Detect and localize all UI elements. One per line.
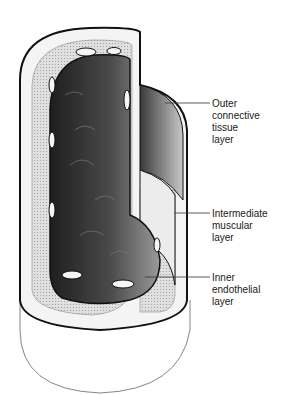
blood-vessel-illustration	[0, 0, 282, 395]
label-intermediate-muscular-layer: Intermediate muscular layer	[212, 208, 268, 244]
label-outer-connective-tissue-layer: Outer connective tissue layer	[212, 98, 260, 146]
label-inner-endothelial-layer: Inner endothelial layer	[212, 272, 260, 308]
